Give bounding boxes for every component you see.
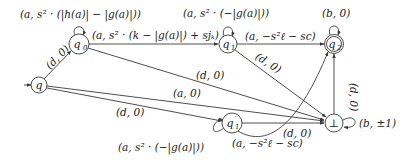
svg-text:q: q [328,38,335,51]
svg-text:1: 1 [231,44,235,52]
node-q2-accepting: q 2 [325,35,344,54]
label-q0-loop: (a, s² · (|h(a)| − |g(a)|)) [20,8,141,22]
label-q1-bot: (d, 0) [253,50,283,75]
label-q-q1p: (d, 0) [116,106,144,118]
svg-text:q: q [222,38,229,51]
label-q1p-q2: (a, −s²ℓ − sc) [232,137,303,149]
label-q-bot: (a, 0) [173,87,201,99]
label-q0-q1: (a, s² · (k − |g(a)|) + sjₖ) [92,29,219,43]
node-q1: q 1 [219,35,237,53]
label-q0-bot: (d, 0) [196,69,224,81]
svg-text:q: q [73,38,80,51]
label-q1-q2: (a, −s²ℓ − sc) [245,30,316,42]
edge-q2-loop [329,26,338,35]
svg-text:2: 2 [336,44,342,52]
svg-text:q: q [226,117,233,130]
label-q1-loop: (a, s² · (−|g(a)|)) [183,7,269,21]
label-q2-loop: (b, 0) [322,7,350,19]
label-bot-loop: (b, ±1) [359,117,396,129]
automaton-diagram: q q 0 q 1 q 2 q 1 ′ ⊥ (a, s² · (|h(a)| −… [0,0,408,167]
svg-text:⊥: ⊥ [329,117,339,130]
edge-bot-loop [343,118,355,127]
svg-text:1: 1 [235,123,239,131]
svg-text:q: q [35,79,42,92]
node-q: q [31,77,47,93]
label-q-q0: (d, 0) [43,43,71,71]
node-q0: q 0 [69,34,89,54]
svg-text:0: 0 [83,44,88,52]
label-bot-q2: (d, 0) [348,83,360,111]
node-bottom: ⊥ [325,114,343,132]
node-q1-prime: q 1 ′ [222,113,242,133]
label-q1p-loop: (a, s² · (−|g(a)|)) [118,141,204,155]
